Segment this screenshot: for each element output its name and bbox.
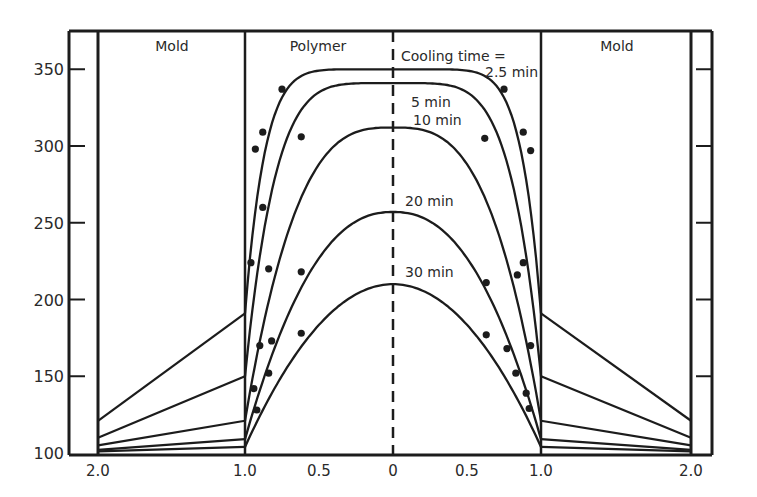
plot-frame	[69, 31, 712, 455]
data-point-10-min	[256, 342, 263, 349]
data-point-10-min	[527, 342, 534, 349]
data-point-30-min	[253, 406, 260, 413]
data-point-2-5-min	[278, 86, 285, 93]
data-point-30-min	[483, 331, 490, 338]
mold-temperature-lines	[98, 313, 691, 451]
data-point-10-min	[247, 259, 254, 266]
data-point-2-5-min	[500, 86, 507, 93]
y-tick-label: 150	[33, 367, 64, 386]
x-axis: 2.01.00.500.51.02.0	[86, 462, 703, 480]
region-label-mold-right: Mold	[600, 38, 633, 54]
region-label-mold-left: Mold	[155, 38, 188, 54]
data-point-10-min	[298, 268, 305, 275]
x-tick-label: 1.0	[529, 462, 553, 480]
x-tick-label: 0.5	[307, 462, 331, 480]
data-point-20-min	[250, 385, 257, 392]
y-axis: 100150200250300350	[33, 60, 712, 463]
x-tick-label: 2.0	[86, 462, 110, 480]
data-point-2-5-min	[252, 145, 259, 152]
y-tick-label: 100	[33, 444, 64, 463]
curve-label-30-min: 30 min	[405, 264, 454, 280]
region-label-polymer: Polymer	[290, 38, 347, 54]
mold-temperature-line-2-5-min	[98, 313, 245, 420]
data-point-2-5-min	[259, 129, 266, 136]
data-point-20-min	[483, 279, 490, 286]
data-point-5-min	[259, 204, 266, 211]
data-point-5-min	[298, 133, 305, 140]
mold-temperature-line-5-min	[98, 376, 245, 437]
data-point-30-min	[265, 370, 272, 377]
data-point-5-min	[520, 259, 527, 266]
curve-label-10-min: 10 min	[413, 112, 462, 128]
data-point-20-min	[523, 390, 530, 397]
y-tick-label: 200	[33, 291, 64, 310]
data-point-10-min	[265, 265, 272, 272]
data-point-5-min	[481, 135, 488, 142]
annotation-cooling-time: Cooling time =	[401, 48, 506, 64]
temperature-profile-chart: 100150200250300350 2.01.00.500.51.02.0 M…	[0, 0, 757, 497]
data-point-10-min	[514, 271, 521, 278]
mold-temperature-line-2-5-min	[541, 313, 691, 420]
x-tick-label: 0	[388, 462, 398, 480]
data-point-30-min	[512, 370, 519, 377]
x-tick-label: 0.5	[455, 462, 479, 480]
data-point-30-min	[298, 330, 305, 337]
data-point-2-5-min	[527, 147, 534, 154]
y-tick-label: 250	[33, 214, 64, 233]
mold-temperature-line-5-min	[541, 376, 691, 437]
data-point-2-5-min	[520, 129, 527, 136]
curve-label-5-min: 5 min	[411, 94, 451, 110]
data-point-30-min	[526, 405, 533, 412]
data-point-20-min	[268, 337, 275, 344]
y-tick-label: 350	[33, 60, 64, 79]
x-tick-label: 2.0	[679, 462, 703, 480]
y-tick-label: 300	[33, 137, 64, 156]
data-point-20-min	[503, 345, 510, 352]
curve-label-20-min: 20 min	[405, 193, 454, 209]
x-tick-label: 1.0	[233, 462, 257, 480]
curve-label-2-5-min: 2.5 min	[485, 64, 538, 80]
